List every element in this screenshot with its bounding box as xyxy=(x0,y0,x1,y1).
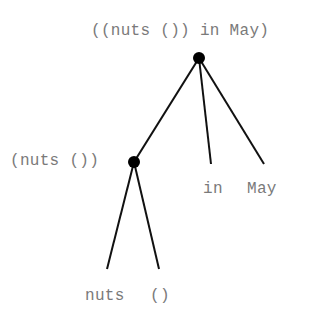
root-node-dot xyxy=(193,52,205,64)
leaf-in-label: in xyxy=(203,181,223,197)
edge-root-to-inner xyxy=(134,58,199,162)
parse-tree-diagram: ((nuts ()) in May) (nuts ()) in May nuts… xyxy=(0,0,326,315)
inner-node-label: (nuts ()) xyxy=(10,153,99,169)
edge-inner-to-nuts xyxy=(107,162,134,269)
edge-inner-to-empty xyxy=(134,162,159,269)
leaf-may-label: May xyxy=(247,181,277,197)
leaf-empty-label: () xyxy=(150,288,170,304)
leaf-nuts-label: nuts xyxy=(85,288,125,304)
root-node-label: ((nuts ()) in May) xyxy=(91,23,269,39)
inner-node-dot xyxy=(128,156,140,168)
